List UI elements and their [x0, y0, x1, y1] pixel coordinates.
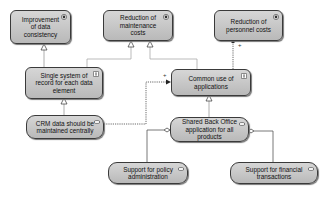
edge-c1-p1: [61, 98, 67, 115]
node-label: Reduction of personnel costs: [223, 18, 274, 33]
node-label: Improvement of data consistency: [19, 16, 62, 38]
service-icon: [178, 166, 184, 172]
goal-reduction-personnel-costs[interactable]: Reduction of personnel costs: [214, 10, 283, 41]
goal-improvement-data-consistency[interactable]: Improvement of data consistency: [10, 10, 71, 44]
node-label: Support for financial transactions: [239, 166, 309, 181]
goal-icon: [61, 14, 67, 20]
goal-icon: [163, 14, 169, 20]
principle-icon: [93, 71, 99, 77]
goal-icon: [273, 14, 279, 20]
node-label: Common use of applications: [180, 75, 242, 90]
edge-s2-c2: [248, 129, 273, 162]
node-label: Single system of record for each data el…: [34, 72, 94, 94]
edge-p2-g2: [147, 41, 197, 69]
service-support-financial-transactions[interactable]: Support for financial transactions: [230, 162, 318, 184]
goal-reduction-maintenance-costs[interactable]: Reduction of maintenance costs: [103, 10, 173, 41]
service-icon: [94, 119, 100, 125]
influence-plus-label: +: [238, 42, 242, 48]
service-icon: [308, 166, 314, 172]
node-label: Support for policy administration: [117, 166, 179, 181]
edge-c1-p2: [104, 80, 171, 125]
node-label: CRM data should be maintained centrally: [35, 120, 95, 135]
service-icon: [239, 121, 245, 127]
influence-plus-label: +: [163, 72, 167, 78]
principle-common-use-of-applications[interactable]: Common use of applications: [171, 69, 251, 96]
node-label: Reduction of maintenance costs: [112, 14, 164, 36]
principle-icon: [241, 73, 247, 79]
edge-p2-g3: [232, 40, 235, 69]
edge-p1-g1: [41, 44, 47, 67]
edge-c2-p2: [206, 95, 212, 117]
service-support-policy-administration[interactable]: Support for policy administration: [108, 162, 188, 184]
principle-single-system-of-record[interactable]: Single system of record for each data el…: [25, 67, 103, 99]
node-label: Shared Back Office application for all p…: [179, 118, 240, 140]
edge-p1-g2: [87, 41, 134, 67]
component-crm-data-maintained-centrally[interactable]: CRM data should be maintained centrally: [26, 115, 104, 139]
component-shared-back-office-application[interactable]: Shared Back Office application for all p…: [170, 117, 249, 142]
edge-s1-c2: [147, 128, 170, 162]
